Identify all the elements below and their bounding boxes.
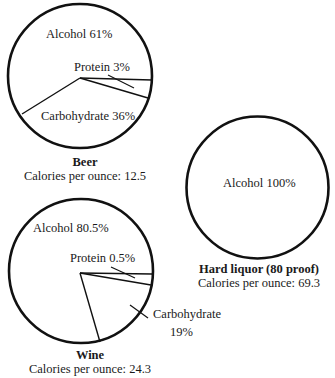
beer-protein-label: Protein 3% [74, 60, 130, 74]
liquor-title: Hard liquor (80 proof) [187, 262, 331, 276]
beer-protein-leader [108, 75, 134, 88]
wine-carbohydrate-label: Carbohydrate [153, 307, 221, 321]
wine-carbohydrate-leader [130, 305, 148, 318]
wine-calories: Calories per ounce: 24.3 [15, 362, 165, 376]
beer-alcohol-label: Alcohol 61% [46, 27, 112, 41]
liquor-caption: Hard liquor (80 proof) Calories per ounc… [187, 262, 331, 290]
beer-title: Beer [0, 155, 170, 169]
wine-protein-label: Protein 0.5% [70, 251, 135, 265]
beer-carbohydrate-label: Carbohydrate 36% [41, 109, 135, 123]
wine-protein-leader [111, 267, 135, 278]
wine-slice-divider [80, 273, 100, 342]
wine-title: Wine [15, 348, 165, 362]
wine-alcohol-label: Alcohol 80.5% [33, 221, 109, 235]
beer-caption: Beer Calories per ounce: 12.5 [0, 155, 170, 183]
wine-carbohydrate-value: 19% [170, 325, 193, 339]
beer-pie [8, 4, 152, 148]
liquor-calories: Calories per ounce: 69.3 [187, 276, 331, 290]
wine-slice-divider [80, 273, 151, 285]
wine-caption: Wine Calories per ounce: 24.3 [15, 348, 165, 376]
beer-calories: Calories per ounce: 12.5 [0, 169, 170, 183]
beer-slice-divider [80, 78, 148, 98]
wine-slice-divider [80, 273, 152, 274]
liquor-alcohol-label: Alcohol 100% [223, 176, 296, 190]
beer-pie-outline [8, 4, 152, 148]
